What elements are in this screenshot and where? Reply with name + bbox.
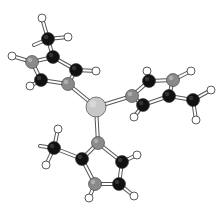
nitrogen-atom: [26, 56, 39, 69]
nitrogen-atom: [167, 74, 180, 87]
nitrogen-atom: [92, 137, 105, 150]
carbon-atom-highlight: [49, 53, 54, 58]
carbon-atom: [113, 178, 126, 191]
nitrogen-atom-highlight: [169, 76, 174, 81]
carbon-atom: [42, 33, 55, 46]
hydrogen-atom: [143, 67, 151, 75]
carbon-atom-highlight: [118, 158, 123, 163]
nitrogen-atom-highlight: [128, 92, 133, 97]
metal-atom: [86, 97, 106, 117]
hydrogen-atom: [207, 86, 215, 94]
nitrogen-atom: [62, 78, 75, 91]
carbon-atom-highlight: [50, 144, 55, 149]
carbon-atom: [116, 156, 129, 169]
carbon-atom-highlight: [72, 66, 77, 71]
carbon-atom: [163, 90, 176, 103]
carbon-atom-highlight: [37, 76, 42, 81]
carbon-atom: [35, 74, 48, 87]
hydrogen-atom: [187, 67, 195, 75]
carbon-atom: [76, 153, 89, 166]
hydrogen-atom: [54, 125, 62, 133]
nitrogen-atom: [89, 178, 102, 191]
carbon-atom: [187, 94, 200, 107]
molecule-diagram: [0, 0, 221, 212]
hydrogen-atom: [64, 33, 72, 41]
nitrogen-atom-highlight: [91, 180, 96, 185]
hydrogen-atom: [42, 161, 50, 169]
carbon-atom-highlight: [189, 96, 194, 101]
hydrogen-atom: [130, 192, 138, 200]
carbon-atom: [143, 75, 156, 88]
hydrogen-atom: [85, 194, 93, 202]
hydrogen-atom: [192, 116, 200, 124]
carbon-atom-highlight: [145, 77, 150, 82]
hydrogen-atom: [92, 67, 100, 75]
carbon-atom: [48, 142, 61, 155]
carbon-atom-highlight: [78, 155, 83, 160]
carbon-atom-highlight: [115, 180, 120, 185]
carbon-atom-highlight: [139, 101, 144, 106]
carbon-atom-highlight: [165, 92, 170, 97]
hydrogen-atom: [26, 82, 34, 90]
carbon-atom-highlight: [44, 35, 49, 40]
nitrogen-atom-highlight: [94, 139, 99, 144]
carbon-atom: [47, 51, 60, 64]
nitrogen-atom: [126, 90, 139, 103]
carbon-atom: [137, 99, 150, 112]
hydrogen-atom: [133, 151, 141, 159]
nitrogen-atom-highlight: [64, 80, 69, 85]
metal-atom-highlight: [90, 101, 97, 108]
hydrogen-atom: [38, 14, 46, 22]
hydrogen-atom: [130, 113, 138, 121]
carbon-atom: [70, 64, 83, 77]
nitrogen-atom-highlight: [28, 58, 33, 63]
hydrogen-atom: [8, 52, 16, 60]
